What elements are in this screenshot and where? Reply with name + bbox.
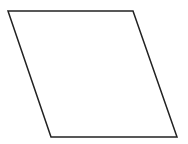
diagram-canvas <box>0 0 188 144</box>
parallelogram <box>8 11 177 137</box>
